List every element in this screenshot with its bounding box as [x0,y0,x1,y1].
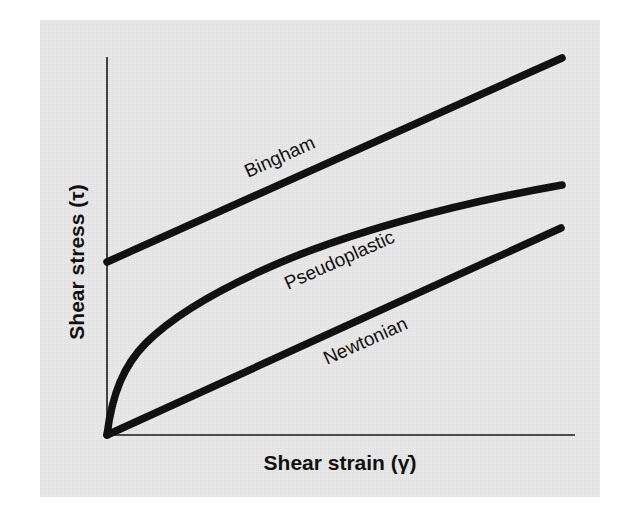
curve-label-pseudoplastic: Pseudoplastic [281,226,398,294]
rheology-figure: Bingham Pseudoplastic Newtonian Shear st… [0,0,625,517]
flow-curve-chart: Bingham Pseudoplastic Newtonian Shear st… [0,0,625,517]
y-axis-label: Shear stress (τ) [65,184,88,339]
x-axis-label: Shear strain (γ̇) [264,451,417,474]
curve-bingham [107,58,562,262]
axis-lines [107,57,575,435]
curve-pseudoplastic [107,185,562,435]
